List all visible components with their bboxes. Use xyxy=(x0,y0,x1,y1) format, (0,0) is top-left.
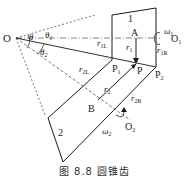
svg-text:r2: r2 xyxy=(104,84,111,95)
svg-text:1: 1 xyxy=(128,13,133,24)
svg-text:θ1: θ1 xyxy=(45,30,52,41)
svg-text:r1R: r1R xyxy=(157,45,168,56)
omega1-rotation-icon xyxy=(154,33,160,45)
figure-caption: 图 8.8 圆锥齿 xyxy=(0,163,189,177)
arrowhead-icon xyxy=(121,107,127,112)
svg-text:r1L: r1L xyxy=(97,38,108,49)
svg-text:r2L: r2L xyxy=(79,64,90,75)
svg-text:θ: θ xyxy=(29,32,34,42)
axis-o2 xyxy=(16,38,130,120)
pitch-line xyxy=(16,38,156,67)
svg-text:P2: P2 xyxy=(155,69,164,81)
svg-text:P: P xyxy=(137,65,143,76)
svg-text:2: 2 xyxy=(58,127,63,138)
svg-text:P1: P1 xyxy=(112,63,121,75)
svg-text:B: B xyxy=(88,103,95,114)
svg-text:r2R: r2R xyxy=(131,93,142,104)
svg-text:O1: O1 xyxy=(171,33,181,45)
svg-text:A: A xyxy=(131,27,139,38)
svg-text:O2: O2 xyxy=(125,121,135,133)
svg-text:ω2: ω2 xyxy=(102,126,111,137)
svg-text:r1: r1 xyxy=(126,42,133,53)
cone-line-upper xyxy=(16,15,95,38)
bevel-gear-diagram: O θ θ1 θ2 1 A r1L r1 r1R ω1 O1 P1 P P2 r… xyxy=(0,0,189,177)
svg-text:θ2: θ2 xyxy=(40,47,47,58)
svg-text:O: O xyxy=(3,32,11,44)
